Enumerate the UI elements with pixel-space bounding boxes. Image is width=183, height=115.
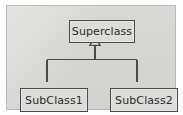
class-box-subclass1[interactable]: SubClass1 (20, 88, 88, 112)
uml-diagram-screenshot: Superclass SubClass1 SubClass2 (0, 0, 183, 115)
diagram-panel: Superclass SubClass1 SubClass2 (6, 5, 176, 110)
class-box-subclass1-label: SubClass1 (25, 94, 83, 107)
class-box-subclass2-label: SubClass2 (115, 94, 173, 107)
class-box-superclass-label: Superclass (72, 25, 132, 38)
class-box-subclass2[interactable]: SubClass2 (110, 88, 178, 112)
class-box-superclass[interactable]: Superclass (69, 20, 135, 43)
